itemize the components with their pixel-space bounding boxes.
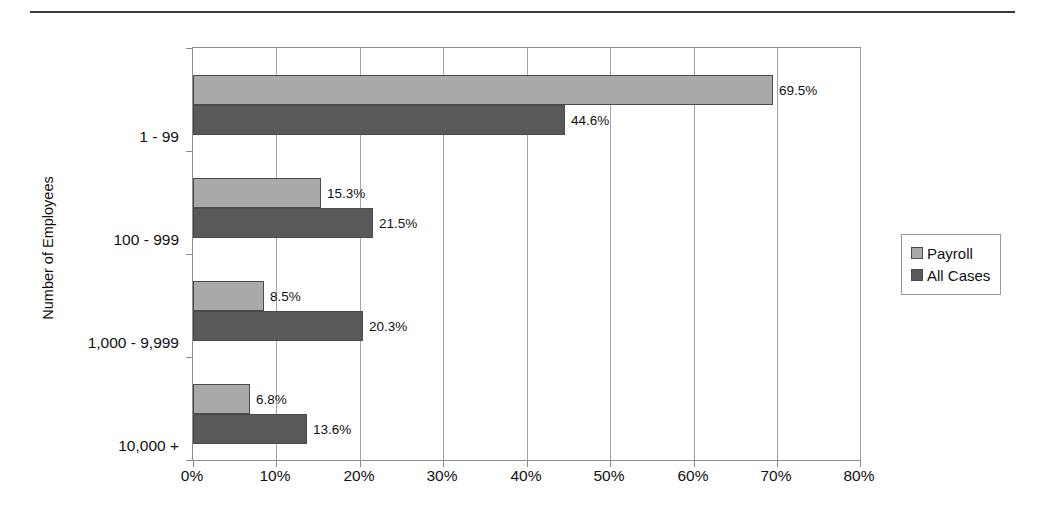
bar-label-allcases-100-999: 21.5% (379, 216, 417, 231)
bar-allcases-10000plus[interactable] (193, 414, 307, 444)
x-tick-label-10: 10% (240, 467, 310, 485)
bar-allcases-1000-9999[interactable] (193, 311, 363, 341)
bar-chart-figure: Number of Employees 1 - 99 100 - 999 1,0… (0, 0, 1039, 531)
bar-payroll-10000plus[interactable] (193, 384, 250, 414)
legend-item-all-cases[interactable]: All Cases (911, 264, 990, 286)
legend-label-payroll: Payroll (927, 246, 973, 261)
bar-label-payroll-10000plus: 6.8% (256, 392, 287, 407)
bar-allcases-100-999[interactable] (193, 208, 373, 238)
legend-item-payroll[interactable]: Payroll (911, 242, 990, 264)
y-tick-label-3: 10,000 + (19, 437, 179, 455)
x-tick-mark-70 (777, 460, 778, 467)
bar-label-allcases-1000-9999: 20.3% (369, 319, 407, 334)
bar-label-payroll-1-99: 69.5% (779, 83, 817, 98)
bar-payroll-1-99[interactable] (193, 75, 773, 105)
y-tick-label-1: 100 - 999 (19, 231, 179, 249)
x-tick-mark-80 (860, 460, 861, 467)
x-tick-mark-0 (193, 460, 194, 467)
bar-label-payroll-100-999: 15.3% (327, 186, 365, 201)
gridline-70 (777, 48, 778, 460)
y-tick-mark-1 (186, 151, 193, 152)
gridline-50 (610, 48, 611, 460)
gridline-60 (694, 48, 695, 460)
x-tick-mark-10 (276, 460, 277, 467)
x-tick-label-30: 30% (407, 467, 477, 485)
x-tick-label-60: 60% (658, 467, 728, 485)
x-tick-label-80: 80% (824, 467, 894, 485)
bar-payroll-100-999[interactable] (193, 178, 321, 208)
x-tick-mark-30 (443, 460, 444, 467)
x-tick-label-20: 20% (324, 467, 394, 485)
x-tick-mark-50 (610, 460, 611, 467)
x-tick-label-70: 70% (741, 467, 811, 485)
x-tick-label-50: 50% (574, 467, 644, 485)
bar-label-allcases-1-99: 44.6% (571, 113, 609, 128)
y-axis-tick-labels: 1 - 99 100 - 999 1,000 - 9,999 10,000 + (20, 47, 185, 459)
y-tick-mark-2 (186, 254, 193, 255)
legend-swatch-payroll-icon (911, 247, 923, 259)
legend-label-all-cases: All Cases (927, 268, 990, 283)
bar-label-payroll-1000-9999: 8.5% (270, 289, 301, 304)
y-tick-label-2: 1,000 - 9,999 (19, 334, 179, 352)
x-axis-tick-labels: 0% 10% 20% 30% 40% 50% 60% 70% 80% (192, 467, 892, 493)
y-tick-mark-bottom (186, 460, 193, 461)
x-tick-mark-20 (360, 460, 361, 467)
legend-swatch-all-cases-icon (911, 269, 923, 281)
y-tick-mark-3 (186, 357, 193, 358)
x-tick-label-0: 0% (157, 467, 227, 485)
x-tick-mark-40 (527, 460, 528, 467)
plot-area: 69.5% 44.6% 15.3% 21.5% 8.5% 20.3% 6.8% … (192, 47, 861, 460)
x-tick-mark-60 (694, 460, 695, 467)
y-tick-label-0: 1 - 99 (19, 128, 179, 146)
bar-payroll-1000-9999[interactable] (193, 281, 264, 311)
bar-label-allcases-10000plus: 13.6% (313, 422, 351, 437)
x-tick-label-40: 40% (491, 467, 561, 485)
chart-legend: Payroll All Cases (901, 234, 1001, 295)
y-tick-mark-top (186, 48, 193, 49)
bar-allcases-1-99[interactable] (193, 105, 565, 135)
gridline-80 (860, 48, 861, 460)
